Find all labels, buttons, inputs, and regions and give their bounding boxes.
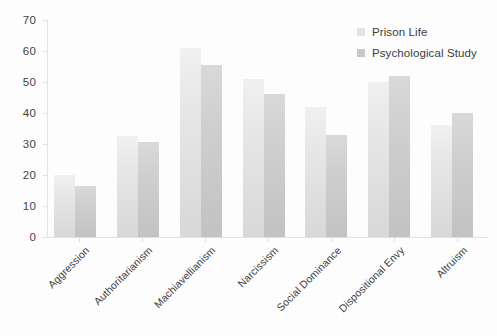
- x-tick-mark: [268, 238, 269, 242]
- bar-group: [174, 20, 237, 237]
- y-tick-mark: [43, 175, 48, 176]
- y-tick-mark: [43, 144, 48, 145]
- x-tick-label: Dispositional Envy: [336, 244, 406, 314]
- bar-chart: 010203040506070 AggressionAuthoritariani…: [0, 0, 497, 336]
- bar: [431, 125, 452, 237]
- bar: [326, 135, 347, 237]
- y-tick-mark: [43, 206, 48, 207]
- y-tick-mark: [43, 237, 48, 238]
- bar: [389, 76, 410, 237]
- legend-label: Prison Life: [372, 26, 427, 38]
- y-tick-label: 40: [23, 107, 36, 119]
- y-tick-mark: [43, 20, 48, 21]
- legend-item[interactable]: Prison Life: [357, 26, 477, 38]
- y-tick-label: 10: [23, 200, 36, 212]
- x-tick-label: Machiavellianism: [151, 244, 217, 310]
- bar: [368, 82, 389, 237]
- y-tick-label: 70: [23, 14, 36, 26]
- x-tick-label: Narcissism: [235, 244, 280, 289]
- x-tick-mark: [457, 238, 458, 242]
- y-tick-mark: [43, 51, 48, 52]
- y-tick-label: 30: [23, 138, 36, 150]
- legend-item[interactable]: Psychological Study: [357, 47, 477, 59]
- bar: [138, 142, 159, 237]
- bar: [305, 107, 326, 237]
- bar-group: [237, 20, 300, 237]
- y-tick-label: 20: [23, 169, 36, 181]
- bar: [117, 136, 138, 237]
- y-tick-label: 60: [23, 45, 36, 57]
- x-tick-mark: [331, 238, 332, 242]
- legend-swatch-icon: [357, 28, 365, 36]
- x-tick-mark: [394, 238, 395, 242]
- bar: [180, 48, 201, 237]
- y-tick-label: 50: [23, 76, 36, 88]
- x-tick-label: Altruism: [433, 244, 469, 280]
- legend-label: Psychological Study: [372, 47, 477, 59]
- x-tick-label: Social Dominance: [274, 244, 343, 313]
- bar: [75, 186, 96, 237]
- bar-group: [111, 20, 174, 237]
- x-tick-mark: [142, 238, 143, 242]
- bar: [452, 113, 473, 237]
- y-tick-mark: [43, 82, 48, 83]
- chart-legend: Prison LifePsychological Study: [357, 26, 477, 59]
- bar-group: [48, 20, 111, 237]
- y-tick-label: 0: [29, 231, 36, 243]
- bar: [54, 175, 75, 237]
- bar: [264, 94, 285, 237]
- bar-group: [299, 20, 362, 237]
- y-axis: 010203040506070: [0, 0, 44, 336]
- x-tick-label: Aggression: [46, 244, 92, 290]
- x-tick-mark: [205, 238, 206, 242]
- y-tick-mark: [43, 113, 48, 114]
- bar: [201, 65, 222, 237]
- x-tick-mark: [79, 238, 80, 242]
- x-tick-label: Authoritarianism: [92, 244, 155, 307]
- x-axis: AggressionAuthoritarianismMachiavelliani…: [48, 238, 488, 336]
- bar: [243, 79, 264, 237]
- legend-swatch-icon: [357, 49, 365, 57]
